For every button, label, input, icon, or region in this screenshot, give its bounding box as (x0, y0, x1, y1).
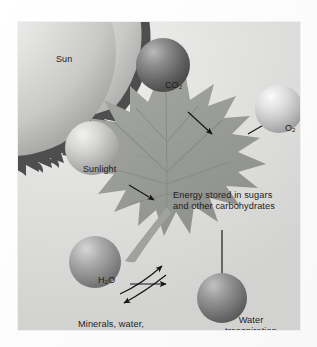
sunlight-label: Sunlight (83, 164, 116, 174)
water-transpiration-label: Watertranspiration (216, 315, 286, 330)
water-transpiration-line1: Water (239, 315, 264, 325)
minerals-caption-line1: Minerals, water, (78, 319, 144, 329)
o2-label-subscript: 2 (292, 126, 296, 133)
leaf-energy-caption: Energy stored in sugars and other carboh… (173, 190, 278, 213)
h2o-label-text: H (98, 275, 105, 285)
arrow-root-uptake (120, 266, 162, 294)
h2o-label-text-tail: O (108, 275, 115, 285)
sun-label: Sun (56, 54, 72, 64)
water-transpiration-line2: transpiration (225, 326, 277, 330)
co2-label: CO2 (165, 80, 182, 92)
co2-label-text: CO (165, 80, 179, 90)
minerals-caption: Minerals, water,and other nutrients (78, 319, 198, 330)
co2-label-subscript: 2 (179, 83, 183, 90)
o2-label: O2 (285, 123, 296, 135)
figure-canvas (18, 22, 300, 330)
h2o-label: H2O (98, 275, 115, 287)
page-background: Sun Sunlight CO2 O2 H2O Energy stored in… (0, 0, 317, 347)
photosynthesis-figure: Sun Sunlight CO2 O2 H2O Energy stored in… (18, 22, 300, 330)
